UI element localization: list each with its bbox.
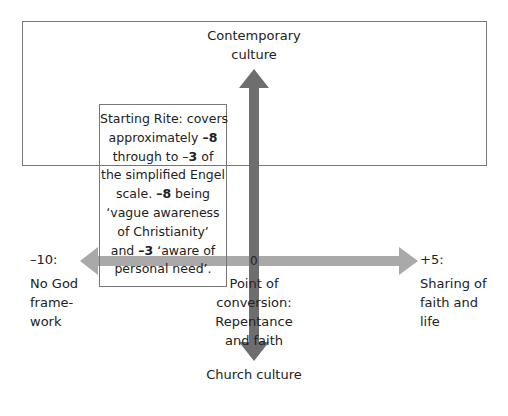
right-desc-line: Sharing of	[420, 274, 487, 293]
note-text: of	[197, 149, 213, 164]
note-text: ‘vague awareness	[106, 205, 219, 220]
left-value-label: –10:	[30, 251, 57, 270]
conversion-line: conversion:	[204, 293, 304, 312]
note-emphasis: –3	[138, 243, 153, 258]
bottom-label: Church culture	[194, 366, 314, 385]
note-text: and	[111, 243, 139, 258]
note-text: Starting Rite: covers	[100, 111, 228, 126]
right-value-label: +5:	[420, 251, 444, 270]
left-desc-line: frame-	[30, 293, 78, 312]
note-line: scale. –8 being	[100, 185, 226, 204]
note-line: ‘vague awareness	[100, 204, 226, 223]
starting-rite-note: Starting Rite: coversapproximately –8thr…	[99, 104, 227, 287]
note-text: the simplified Engel	[101, 167, 225, 182]
note-text: of Christianity’	[117, 224, 209, 239]
note-text: being	[171, 186, 210, 201]
note-line: approximately –8	[100, 129, 226, 148]
note-line: through to –3 of	[100, 148, 226, 167]
top-label-line: culture	[194, 46, 314, 65]
conversion-line: Repentance	[204, 312, 304, 331]
note-line: personal need’.	[100, 260, 226, 279]
note-text: approximately	[109, 130, 203, 145]
origin-label: 0	[250, 252, 258, 271]
note-line: the simplified Engel	[100, 166, 226, 185]
note-text: through to –	[113, 149, 189, 164]
right-desc-line: faith and	[420, 293, 487, 312]
left-desc-line: No God	[30, 274, 78, 293]
note-line: of Christianity’	[100, 223, 226, 242]
note-line: and –3 ‘aware of	[100, 242, 226, 261]
note-line: Starting Rite: covers	[100, 110, 226, 129]
top-label: Contemporary culture	[194, 27, 314, 64]
right-desc-line: life	[420, 312, 487, 331]
note-emphasis: 3	[189, 149, 198, 164]
note-emphasis: –8	[156, 186, 171, 201]
note-text: scale.	[116, 186, 156, 201]
left-desc-line: work	[30, 312, 78, 331]
left-desc-label: No God frame- work	[30, 274, 78, 331]
note-text: ‘aware of	[153, 243, 215, 258]
right-desc-label: Sharing of faith and life	[420, 274, 487, 331]
note-emphasis: –8	[202, 130, 217, 145]
conversion-line: and faith	[204, 331, 304, 350]
note-text: personal need’.	[114, 261, 211, 276]
top-label-line: Contemporary	[194, 27, 314, 46]
